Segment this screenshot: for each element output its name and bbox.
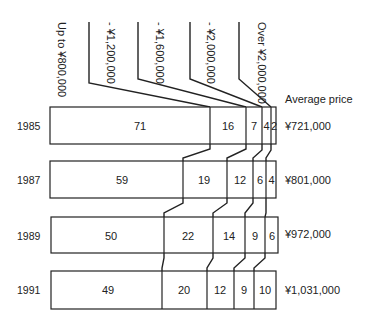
value-1987-0: 59 xyxy=(116,174,128,186)
value-1985-2: 7 xyxy=(251,120,257,132)
price-1985: ¥721,000 xyxy=(284,120,331,132)
average-price-header: Average price xyxy=(285,93,353,105)
value-1989-4: 6 xyxy=(269,230,275,242)
average-prices: ¥721,000 ¥801,000 ¥972,000 ¥1,031,000 xyxy=(284,120,340,296)
value-1989-2: 14 xyxy=(223,230,235,242)
value-1991-2: 12 xyxy=(214,284,226,296)
bar-1989 xyxy=(51,217,278,253)
value-1991-0: 49 xyxy=(102,284,114,296)
value-1991-4: 10 xyxy=(259,284,271,296)
value-1985-4: 2 xyxy=(271,120,277,132)
value-1989-3: 9 xyxy=(252,230,258,242)
legend-label-3: - ¥2,000,000 xyxy=(205,22,217,84)
value-1987-3: 6 xyxy=(257,174,263,186)
value-1989-0: 50 xyxy=(105,230,117,242)
legend-label-2: - ¥1,600,000 xyxy=(154,22,166,84)
year-label-1987: 1987 xyxy=(17,174,41,186)
value-1991-1: 20 xyxy=(178,284,190,296)
bar-1985 xyxy=(50,107,276,144)
legend: Up to ¥800,000 - ¥1,200,000 - ¥1,600,000… xyxy=(56,22,353,105)
value-1987-1: 19 xyxy=(198,174,210,186)
value-1991-3: 9 xyxy=(241,284,247,296)
bars xyxy=(50,107,278,309)
year-label-1985: 1985 xyxy=(17,120,41,132)
value-1985-1: 16 xyxy=(222,120,234,132)
year-label-1989: 1989 xyxy=(17,230,41,242)
value-1985-3: 4 xyxy=(263,120,269,132)
price-1991: ¥1,031,000 xyxy=(284,284,340,296)
chart-canvas: Up to ¥800,000 - ¥1,200,000 - ¥1,600,000… xyxy=(0,0,371,326)
price-1987: ¥801,000 xyxy=(284,174,331,186)
leader-line-3 xyxy=(190,22,262,107)
value-1989-1: 22 xyxy=(182,230,194,242)
legend-label-4: Over ¥2,000,000 xyxy=(256,22,268,104)
year-labels: 1985 1987 1989 1991 xyxy=(17,120,41,296)
year-label-1991: 1991 xyxy=(17,284,41,296)
legend-label-0: Up to ¥800,000 xyxy=(56,22,68,97)
price-1989: ¥972,000 xyxy=(284,228,331,240)
value-1985-0: 71 xyxy=(134,120,146,132)
segment-values: 71 16 7 4 2 59 19 12 6 4 50 22 14 9 6 49… xyxy=(102,120,277,296)
value-1987-4: 4 xyxy=(268,174,274,186)
value-1987-2: 12 xyxy=(234,174,246,186)
legend-label-1: - ¥1,200,000 xyxy=(105,22,117,84)
